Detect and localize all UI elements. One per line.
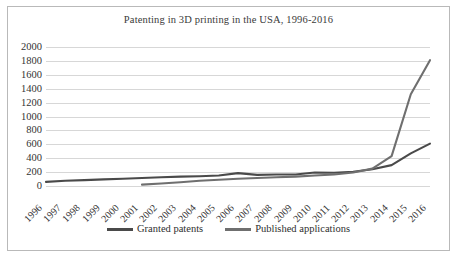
gridline: [46, 186, 430, 187]
x-axis-tick-label: 2004: [176, 203, 197, 224]
y-axis-tick-label: 1600: [0, 70, 42, 81]
legend-item[interactable]: Granted patents: [107, 224, 203, 235]
y-axis-tick-label: 800: [0, 125, 42, 136]
x-axis-tick-label: 2009: [272, 203, 293, 224]
x-axis-tick-label: 2013: [349, 203, 370, 224]
y-axis-tick-label: 0: [0, 181, 42, 192]
x-axis-tick-label: 2005: [195, 203, 216, 224]
x-axis-tick-label: 2000: [99, 203, 120, 224]
y-axis-tick-label: 200: [0, 167, 42, 178]
y-axis-tick-label: 1200: [0, 97, 42, 108]
x-axis-tick-label: 2012: [330, 203, 351, 224]
x-axis-tick-label: 1999: [80, 203, 101, 224]
series-line: [46, 144, 430, 182]
x-axis-tick-label: 2010: [291, 203, 312, 224]
x-axis-tick-label: 2015: [387, 203, 408, 224]
x-axis-tick-label: 2016: [407, 203, 428, 224]
x-axis-tick-label: 2007: [234, 203, 255, 224]
x-axis-tick-label: 2003: [157, 203, 178, 224]
chart-figure: Patenting in 3D printing in the USA, 199…: [0, 0, 457, 258]
x-axis-tick-label: 2008: [253, 203, 274, 224]
chart-legend: Granted patentsPublished applications: [0, 224, 457, 235]
x-axis-tick-label: 2001: [119, 203, 140, 224]
y-axis-tick-label: 1800: [0, 56, 42, 67]
legend-item-label: Granted patents: [137, 224, 203, 235]
y-axis-tick-label: 400: [0, 153, 42, 164]
y-axis: 0200400600800100012001400160018002000: [0, 47, 42, 186]
page-title: Patenting in 3D printing in the USA, 199…: [0, 14, 457, 25]
x-axis-tick-label: 2014: [368, 203, 389, 224]
x-axis-tick-label: 2011: [311, 203, 332, 224]
y-axis-tick-label: 600: [0, 139, 42, 150]
series-lines: [46, 47, 430, 186]
x-axis-tick-label: 2006: [215, 203, 236, 224]
y-axis-tick-label: 2000: [0, 42, 42, 53]
plot-area: [46, 47, 430, 186]
legend-item[interactable]: Published applications: [225, 224, 350, 235]
legend-line-icon: [225, 228, 251, 231]
legend-line-icon: [107, 228, 133, 231]
legend-item-label: Published applications: [255, 224, 350, 235]
x-axis: 1996199719981999200020012002200320042005…: [46, 188, 430, 228]
y-axis-tick-label: 1400: [0, 83, 42, 94]
y-axis-tick-label: 1000: [0, 111, 42, 122]
x-axis-tick-label: 1998: [61, 203, 82, 224]
x-axis-tick-label: 1997: [42, 203, 63, 224]
x-axis-tick-label: 2002: [138, 203, 159, 224]
